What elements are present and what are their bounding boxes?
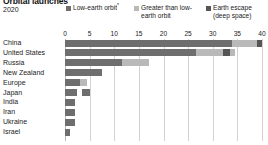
legend-label-leo: Low-earth orbit*: [73, 4, 121, 12]
bar-row: United States: [0, 49, 268, 59]
bar-segment-gleo: [196, 49, 223, 56]
category-label-united-states: United States: [3, 49, 45, 57]
bar-row: Europe: [0, 79, 268, 89]
legend-swatch-leo: [66, 6, 71, 11]
x-tick-25: 25: [184, 30, 191, 37]
bar-row: Japan: [0, 89, 268, 99]
category-label-india: India: [3, 98, 18, 106]
category-label-iran: Iran: [3, 108, 15, 116]
bar-segment-leo: [65, 119, 75, 126]
x-tick-20: 20: [160, 30, 167, 37]
plot-area: 0510152025303540 ChinaUnited StatesRussi…: [0, 30, 268, 145]
category-label-new-zealand: New Zealand: [3, 69, 44, 77]
bar-row: Israel: [0, 128, 268, 138]
bar-segment-leo: [65, 129, 70, 136]
bar-rows: ChinaUnited StatesRussiaNew ZealandEurop…: [0, 39, 268, 141]
bar-segment-leo: [65, 109, 75, 116]
bar-segment-leo: [65, 49, 196, 56]
bar-segment-escape: [223, 49, 230, 56]
x-tick-0: 0: [63, 30, 67, 37]
legend-label-gleo: Greater than low-earth orbit: [141, 4, 197, 19]
bar-row: New Zealand: [0, 69, 268, 79]
x-tick-30: 30: [209, 30, 216, 37]
category-label-russia: Russia: [3, 59, 24, 67]
chart-year-label: 2020: [3, 6, 19, 13]
x-tick-40: 40: [258, 30, 265, 37]
bar-segment-leo: [65, 79, 80, 86]
bar-segment-escape: [257, 40, 262, 47]
bar-segment-leo: [65, 89, 77, 96]
bar-segment-leo: [65, 99, 75, 106]
bar-row: Ukraine: [0, 118, 268, 128]
orbital-launches-chart: Orbital launches 2020 Low-earth orbit*Gr…: [0, 0, 268, 145]
legend-label-escape: Earth escape (deep space): [213, 4, 263, 19]
category-label-china: China: [3, 39, 21, 47]
bar-segment-gleo: [232, 40, 257, 47]
x-tick-35: 35: [234, 30, 241, 37]
bar-row: India: [0, 98, 268, 108]
category-label-ukraine: Ukraine: [3, 118, 27, 126]
bar-segment-leo: [65, 69, 102, 76]
bar-row: Iran: [0, 108, 268, 118]
bar-segment-gleo: [122, 59, 149, 66]
legend-item-leo[interactable]: Low-earth orbit*: [66, 4, 124, 22]
bar-segment-leo: [65, 59, 122, 66]
x-tick-15: 15: [135, 30, 142, 37]
legend-item-gleo[interactable]: Greater than low-earth orbit: [134, 4, 200, 22]
legend-swatch-gleo: [134, 6, 139, 11]
bar-row: Russia: [0, 59, 268, 69]
legend-footnote-marker: *: [117, 2, 119, 8]
category-label-japan: Japan: [3, 89, 22, 97]
x-tick-10: 10: [111, 30, 118, 37]
bar-segment-gleo: [80, 79, 87, 86]
category-label-israel: Israel: [3, 128, 20, 136]
chart-legend: Low-earth orbit*Greater than low-earth o…: [66, 4, 268, 24]
legend-swatch-escape: [206, 6, 211, 11]
bar-segment-gleo: [230, 49, 235, 56]
bar-segment-escape: [82, 89, 89, 96]
bar-row: China: [0, 39, 268, 49]
x-tick-5: 5: [88, 30, 92, 37]
legend-item-escape[interactable]: Earth escape (deep space): [206, 4, 266, 22]
bar-segment-leo: [65, 40, 232, 47]
category-label-europe: Europe: [3, 79, 26, 87]
